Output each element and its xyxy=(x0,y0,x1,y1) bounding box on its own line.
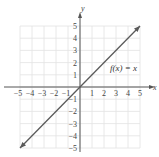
svg-text:−3: −3 xyxy=(68,120,77,129)
svg-text:4: 4 xyxy=(126,89,130,98)
y-axis-label: y xyxy=(80,4,85,13)
svg-text:5: 5 xyxy=(73,22,77,31)
svg-text:3: 3 xyxy=(73,46,77,55)
svg-text:1: 1 xyxy=(73,71,77,80)
function-label: f(x) = x xyxy=(110,63,137,73)
svg-text:−5: −5 xyxy=(68,144,77,153)
function-graph: −5−4−3−2−112345−5−4−3−2−112345 f(x) = x … xyxy=(0,0,159,157)
svg-text:−2: −2 xyxy=(50,89,59,98)
svg-text:2: 2 xyxy=(73,59,77,68)
svg-text:−4: −4 xyxy=(68,132,77,141)
svg-text:−2: −2 xyxy=(68,107,77,116)
svg-text:2: 2 xyxy=(102,89,106,98)
svg-text:3: 3 xyxy=(114,89,118,98)
svg-text:4: 4 xyxy=(73,34,77,43)
svg-text:5: 5 xyxy=(138,89,142,98)
svg-text:−3: −3 xyxy=(38,89,47,98)
svg-text:−4: −4 xyxy=(26,89,35,98)
x-axis-label: x xyxy=(152,83,157,92)
svg-text:1: 1 xyxy=(90,89,94,98)
svg-text:−5: −5 xyxy=(14,89,23,98)
